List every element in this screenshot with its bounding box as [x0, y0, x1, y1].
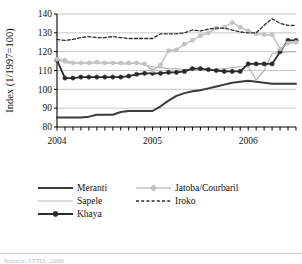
y-tick-label: 140: [38, 9, 53, 19]
series-marker-khaya: [230, 69, 234, 73]
series-marker-khaya: [71, 76, 75, 80]
y-tick-label: 130: [38, 28, 53, 38]
series-marker-jatoba-courbaril: [135, 61, 139, 65]
y-tick-label: 110: [38, 66, 52, 76]
series-marker-jatoba-courbaril: [111, 61, 115, 65]
series-line-meranti: [57, 81, 296, 118]
series-marker-jatoba-courbaril: [198, 34, 202, 38]
series-marker-khaya: [182, 69, 186, 73]
series-marker-khaya: [214, 68, 218, 72]
series-marker-khaya: [135, 72, 139, 76]
legend-label: Iroko: [175, 196, 196, 206]
price-index-line-chart: 8090100110120130140200420052006Index (1/…: [0, 0, 302, 264]
series-marker-khaya: [111, 75, 115, 79]
series-marker-khaya: [198, 67, 202, 71]
legend-item-meranti[interactable]: Meranti: [38, 183, 107, 193]
series-marker-jatoba-courbaril: [230, 20, 234, 24]
series-marker-khaya: [254, 62, 258, 66]
series-marker-khaya: [87, 75, 91, 79]
series-marker-jatoba-courbaril: [262, 33, 266, 37]
x-tick-label: 2005: [143, 136, 162, 146]
series-marker-khaya: [206, 67, 210, 71]
series-marker-khaya: [238, 69, 242, 73]
series-marker-khaya: [246, 62, 250, 66]
series-line-sapele: [57, 52, 296, 80]
y-tick-label: 80: [43, 122, 53, 132]
series-marker-jatoba-courbaril: [166, 49, 170, 53]
series-marker-jatoba-courbaril: [63, 58, 67, 62]
legend-label: Meranti: [77, 183, 107, 193]
series-marker-jatoba-courbaril: [270, 33, 274, 37]
series-marker-jatoba-courbaril: [55, 57, 59, 61]
series-marker-jatoba-courbaril: [286, 41, 290, 45]
legend-swatch-marker: [151, 186, 156, 191]
x-tick-label: 2006: [239, 136, 258, 146]
series-line-iroko: [57, 19, 296, 41]
legend-item-jatoba-courbaril[interactable]: Jatoba/Courbaril: [136, 183, 239, 193]
series-marker-khaya: [119, 75, 123, 79]
series-marker-jatoba-courbaril: [182, 42, 186, 46]
source-note: Source: ITTO, 2006: [4, 257, 64, 264]
series-marker-jatoba-courbaril: [278, 47, 282, 51]
figure-container: 8090100110120130140200420052006Index (1/…: [0, 0, 302, 264]
series-marker-jatoba-courbaril: [174, 48, 178, 52]
legend-label: Sapele: [77, 196, 102, 206]
y-tick-label: 100: [38, 85, 53, 95]
series-marker-jatoba-courbaril: [79, 61, 83, 65]
series-marker-jatoba-courbaril: [151, 68, 155, 72]
footer-divider: [0, 253, 302, 254]
series-marker-jatoba-courbaril: [143, 62, 147, 66]
series-marker-khaya: [262, 62, 266, 66]
y-axis-title: Index (1/1997=100): [4, 28, 16, 113]
series-marker-jatoba-courbaril: [87, 61, 91, 65]
legend-swatch-marker: [53, 212, 58, 217]
y-tick-label: 90: [43, 103, 53, 113]
series-marker-jatoba-courbaril: [294, 40, 298, 44]
series-marker-khaya: [222, 69, 226, 73]
y-tick-label: 120: [38, 47, 53, 57]
series-marker-jatoba-courbaril: [158, 63, 162, 67]
series-marker-khaya: [158, 71, 162, 75]
series-marker-khaya: [79, 75, 83, 79]
series-marker-khaya: [190, 67, 194, 71]
series-marker-jatoba-courbaril: [95, 60, 99, 64]
legend-item-khaya[interactable]: Khaya: [38, 209, 103, 219]
series-marker-khaya: [63, 76, 67, 80]
x-tick-label: 2004: [48, 136, 67, 146]
series-marker-jatoba-courbaril: [103, 61, 107, 65]
series-marker-jatoba-courbaril: [71, 61, 75, 65]
series-marker-khaya: [95, 75, 99, 79]
series-marker-khaya: [166, 70, 170, 74]
series-marker-jatoba-courbaril: [119, 61, 123, 65]
series-marker-khaya: [174, 70, 178, 74]
series-marker-jatoba-courbaril: [238, 25, 242, 29]
series-marker-khaya: [270, 62, 274, 66]
series-marker-khaya: [103, 75, 107, 79]
series-marker-jatoba-courbaril: [206, 31, 210, 35]
series-marker-jatoba-courbaril: [190, 38, 194, 42]
legend-item-iroko[interactable]: Iroko: [136, 196, 196, 206]
series-marker-jatoba-courbaril: [127, 61, 131, 65]
series-marker-khaya: [127, 74, 131, 78]
legend-label: Khaya: [77, 209, 103, 219]
legend-label: Jatoba/Courbaril: [175, 183, 239, 193]
legend-item-sapele[interactable]: Sapele: [38, 196, 102, 206]
series-marker-khaya: [143, 71, 147, 75]
